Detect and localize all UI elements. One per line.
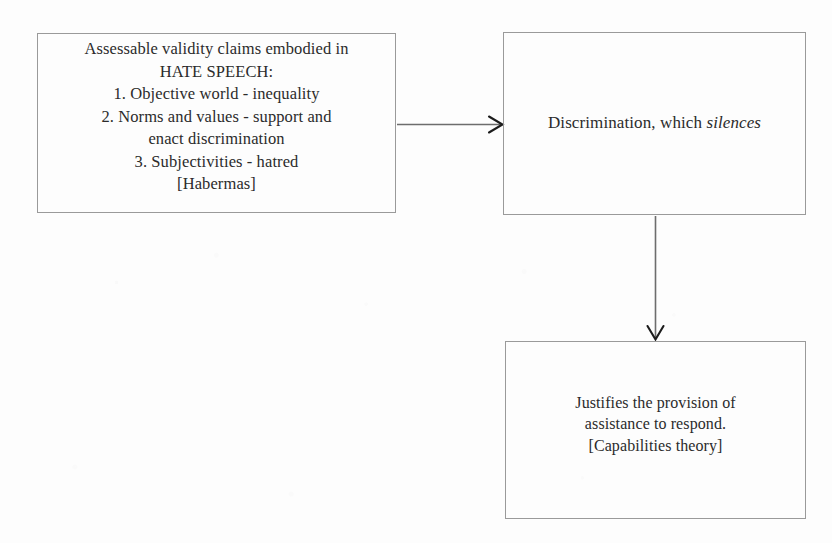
node-justifies-text: Justifies the provision of assistance to… <box>569 392 741 456</box>
node-discrimination-text: Discrimination, which silences <box>542 112 767 134</box>
arrow-claims-to-discrimination <box>397 117 503 133</box>
node-discrimination: Discrimination, which silences <box>503 32 806 215</box>
diagram-canvas: Assessable validity claims embodied in H… <box>0 0 832 543</box>
node-validity-claims: Assessable validity claims embodied in H… <box>37 33 396 213</box>
node-justifies: Justifies the provision of assistance to… <box>505 341 806 519</box>
arrow-discrimination-to-justifies <box>648 216 664 340</box>
node-discrimination-text-plain: Discrimination, which <box>548 113 706 132</box>
node-validity-claims-text: Assessable validity claims embodied in H… <box>78 34 354 196</box>
node-discrimination-text-emphasis: silences <box>706 113 761 132</box>
